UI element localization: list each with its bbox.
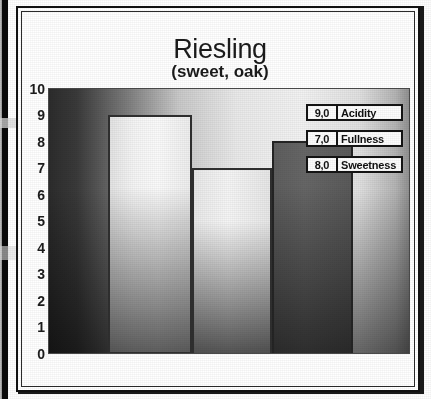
y-tick-4: 4 <box>19 241 45 255</box>
y-tick-10: 10 <box>19 82 45 96</box>
y-axis: 10 9 8 7 6 5 4 3 2 1 0 <box>18 82 48 364</box>
legend-value-sweetness: 8,0 <box>308 158 338 171</box>
legend-label-sweetness: Sweetness <box>338 158 401 171</box>
y-tick-8: 8 <box>19 135 45 149</box>
legend-label-fullness: Fullness <box>338 132 401 145</box>
y-tick-1: 1 <box>19 320 45 334</box>
y-tick-5: 5 <box>19 214 45 228</box>
frame-shadow-right <box>420 6 424 394</box>
y-tick-0: 0 <box>19 347 45 361</box>
chart-legend: 9,0 Acidity 7,0 Fullness 8,0 Sweetness <box>306 104 403 182</box>
chart-subtitle: (sweet, oak) <box>40 62 400 82</box>
y-tick-9: 9 <box>19 108 45 122</box>
y-tick-3: 3 <box>19 267 45 281</box>
chart-title: Riesling <box>40 34 400 64</box>
bar-fullness <box>192 168 272 354</box>
legend-label-acidity: Acidity <box>338 106 401 119</box>
legend-value-acidity: 9,0 <box>308 106 338 119</box>
legend-value-fullness: 7,0 <box>308 132 338 145</box>
y-tick-2: 2 <box>19 294 45 308</box>
legend-item-fullness: 7,0 Fullness <box>306 130 403 147</box>
chart-screenshot: Riesling (sweet, oak) 10 9 8 7 6 5 4 3 2… <box>0 0 431 399</box>
y-tick-7: 7 <box>19 161 45 175</box>
y-tick-6: 6 <box>19 188 45 202</box>
legend-item-sweetness: 8,0 Sweetness <box>306 156 403 173</box>
page-binding-spine <box>2 0 8 399</box>
legend-item-acidity: 9,0 Acidity <box>306 104 403 121</box>
scan-smudge-secondary <box>0 246 16 260</box>
bar-acidity <box>108 115 192 354</box>
